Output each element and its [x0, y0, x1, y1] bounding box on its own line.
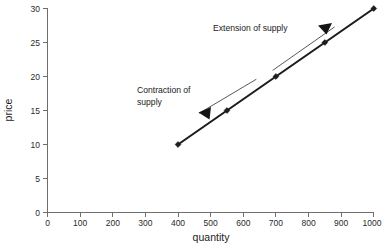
x-tick-label-900: 900 [334, 218, 348, 228]
x-tick-label-0: 0 [45, 218, 50, 228]
x-tick-label-1000: 1000 [363, 218, 382, 228]
x-tick-label-500: 500 [204, 218, 218, 228]
x-tick-label-200: 200 [106, 218, 120, 228]
y-tick-group: 30 25 20 15 10 5 0 [31, 4, 48, 218]
x-tick-label-700: 700 [269, 218, 283, 228]
y-tick-label-20: 20 [31, 72, 41, 82]
annotation-extension-of-supply: Extension of supply [213, 23, 335, 70]
annotation-contraction-of-supply: Contraction of supply [137, 79, 256, 119]
extension-annotation-label: Extension of supply [213, 23, 288, 33]
x-tick-label-800: 800 [302, 218, 316, 228]
contraction-annotation-label-line1: Contraction of [137, 85, 191, 95]
supply-curve-chart: 30 25 20 15 10 5 0 0 100 200 300 400 [0, 0, 388, 247]
x-tick-label-600: 600 [236, 218, 250, 228]
y-tick-label-0: 0 [35, 208, 40, 218]
extension-arrow-head-icon [318, 23, 332, 35]
y-tick-label-25: 25 [31, 38, 41, 48]
contraction-annotation-label-line2: supply [137, 97, 163, 107]
contraction-arrow-head-icon [199, 107, 212, 120]
y-axis-title: price [2, 98, 14, 121]
chart-canvas: 30 25 20 15 10 5 0 0 100 200 300 400 [0, 0, 388, 247]
x-tick-label-300: 300 [138, 218, 152, 228]
extension-arrow-shaft [273, 27, 335, 71]
axis-group [48, 8, 375, 213]
y-tick-label-15: 15 [31, 106, 41, 116]
x-tick-label-400: 400 [171, 218, 185, 228]
x-tick-label-100: 100 [73, 218, 87, 228]
y-tick-label-30: 30 [31, 4, 41, 14]
x-axis-title: quantity [193, 231, 231, 243]
y-tick-label-5: 5 [35, 174, 40, 184]
y-tick-label-10: 10 [31, 140, 41, 150]
x-tick-group: 0 100 200 300 400 500 600 700 800 900 10… [45, 213, 382, 229]
